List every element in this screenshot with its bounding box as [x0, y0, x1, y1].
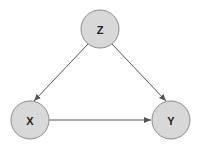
node-y-label: Y	[167, 115, 175, 127]
node-x: X	[11, 101, 49, 139]
node-z-label: Z	[97, 24, 104, 36]
edge-z-to-x	[34, 44, 88, 101]
node-y: Y	[152, 101, 190, 139]
node-z: Z	[81, 10, 119, 48]
edge-z-to-y	[112, 44, 166, 101]
edges	[34, 44, 166, 120]
causal-diagram: Z X Y	[0, 0, 201, 150]
node-x-label: X	[26, 115, 34, 127]
